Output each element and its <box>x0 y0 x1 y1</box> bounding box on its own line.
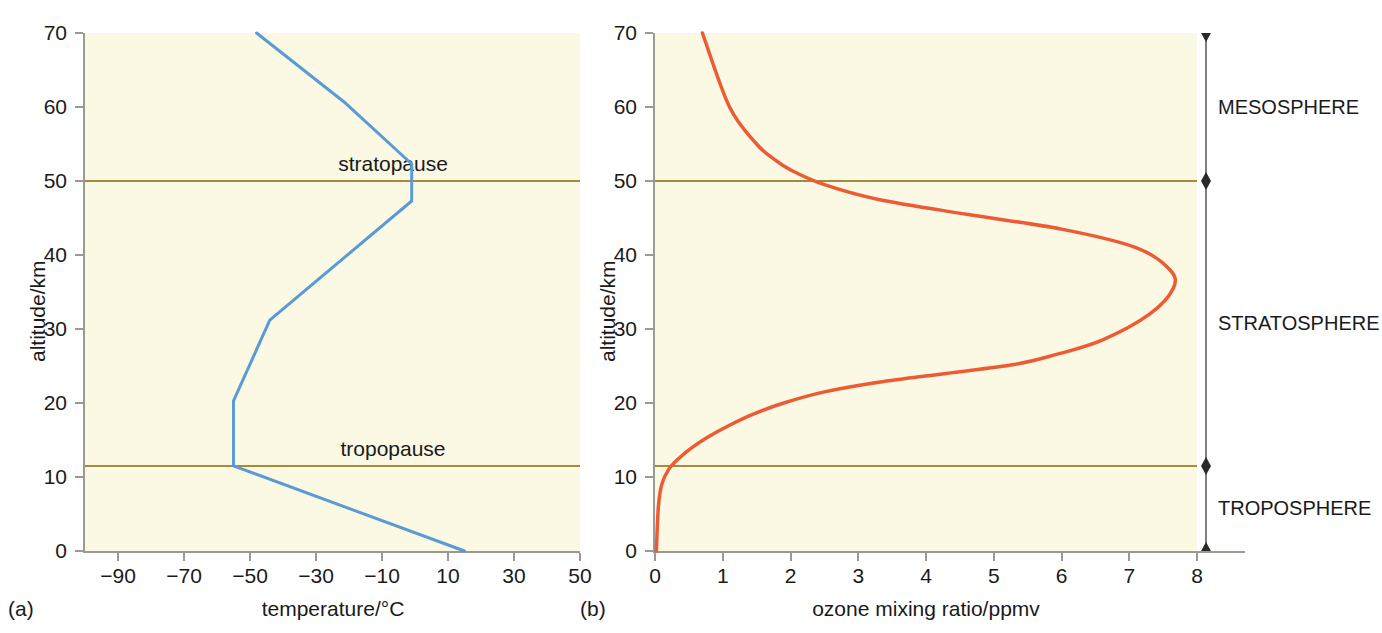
panel-b-y-tick-label: 70 <box>565 21 637 45</box>
panel-b-y-tick-label: 60 <box>565 95 637 119</box>
panel-b-y-tick-label: 10 <box>565 465 637 489</box>
atmosphere-profile-figure: 010203040506070 −90−70−50−30−10103050 st… <box>0 0 1382 633</box>
bracket-arrow-icon <box>1201 181 1211 190</box>
bracket-arrow-icon <box>1201 172 1211 181</box>
panel-b-y-tick-label: 0 <box>565 539 637 563</box>
bracket-arrow-icon <box>1201 457 1211 466</box>
layer-label-mesosphere: MESOSPHERE <box>1218 96 1359 119</box>
bracket-arrow-icon <box>1201 542 1211 551</box>
panel-a-y-axis-label: altitude/km <box>26 260 50 362</box>
panel-a-x-axis-label: temperature/°C <box>262 597 405 621</box>
bracket-arrow-icon <box>1201 466 1211 475</box>
panel-a-caption: (a) <box>8 597 34 621</box>
panel-b-y-tick-label: 20 <box>565 391 637 415</box>
panel-a-temperature: 010203040506070 −90−70−50−30−10103050 st… <box>0 0 640 633</box>
panel-b-caption: (b) <box>580 597 606 621</box>
panel-b-x-axis-label: ozone mixing ratio/ppmv <box>812 597 1040 621</box>
layer-label-troposphere: TROPOSPHERE <box>1218 497 1371 520</box>
panel-b-y-axis-label: altitude/km <box>596 260 620 362</box>
layer-label-stratosphere: STRATOSPHERE <box>1218 312 1380 335</box>
bracket-arrow-icon <box>1201 33 1211 42</box>
panel-a-temperature-curve <box>0 0 640 633</box>
panel-b-y-tick-label: 50 <box>565 169 637 193</box>
panel-b-ozone: 010203040506070 012345678 MESOSPHERESTRA… <box>640 0 1382 633</box>
